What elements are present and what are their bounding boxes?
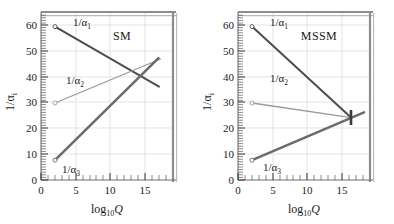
panel-title-mssm: MSSM	[301, 29, 337, 43]
y-tick-labels-mssm: 0 10 20 30 40 50 60	[223, 19, 235, 186]
y-tick-10: 10	[26, 148, 38, 160]
x-tick-5: 5	[73, 184, 79, 196]
y-tick-50: 50	[26, 45, 38, 57]
x-axis-title-var: Q	[311, 202, 320, 216]
x-tick-15: 15	[337, 184, 349, 196]
x-axis-title-mssm: log10Q	[288, 202, 320, 218]
marker-alpha2-start-sm	[53, 101, 57, 105]
y-tick-50: 50	[223, 45, 235, 57]
panel-title-sm: SM	[113, 29, 131, 43]
y-tick-40: 40	[26, 71, 38, 83]
x-axis-title-sub: 10	[106, 209, 114, 218]
y-tick-30: 30	[223, 96, 235, 108]
figure-two-panel-coupling-unification: 0 10 20 30 40 50 60 0 5 10 15 1/αi	[0, 0, 394, 224]
y-axis-title-mssm: 1/αi	[200, 92, 216, 111]
marker-alpha1-start-mssm	[250, 25, 254, 29]
panel-sm: 0 10 20 30 40 50 60 0 5 10 15 1/αi	[0, 0, 197, 224]
x-axis-title-sub: 10	[303, 209, 311, 218]
svg-text:1/αi: 1/αi	[200, 92, 216, 111]
marker-alpha3-start-sm	[53, 158, 57, 162]
y-tick-20: 20	[223, 122, 235, 134]
y-tick-labels-sm: 0 10 20 30 40 50 60	[26, 19, 38, 186]
x-tick-labels-sm: 0 5 10 15	[38, 184, 151, 196]
x-tick-0: 0	[38, 184, 44, 196]
x-tick-10: 10	[105, 184, 117, 196]
marker-alpha2-start-mssm	[250, 101, 254, 105]
y-axis-title-main: 1/α	[200, 95, 214, 111]
panel-mssm: 0 10 20 30 40 50 60 0 5 10 15 1/αi log1	[197, 0, 394, 224]
y-tick-0: 0	[32, 174, 38, 186]
y-tick-30: 30	[26, 96, 38, 108]
y-axis-title-sm: 1/αi	[3, 92, 19, 111]
x-tick-5: 5	[270, 184, 276, 196]
x-tick-0: 0	[235, 184, 241, 196]
y-tick-40: 40	[223, 71, 235, 83]
y-tick-10: 10	[223, 148, 235, 160]
marker-alpha3-start-mssm	[250, 158, 254, 162]
y-tick-0: 0	[229, 174, 235, 186]
x-axis-title-main: log	[288, 202, 303, 216]
x-axis-title-main: log	[91, 202, 106, 216]
x-tick-labels-mssm: 0 5 10 15	[235, 184, 348, 196]
x-tick-10: 10	[302, 184, 314, 196]
y-tick-60: 60	[223, 19, 235, 31]
x-axis-title-sm: log10Q	[91, 202, 123, 218]
y-tick-60: 60	[26, 19, 38, 31]
marker-alpha1-start-sm	[53, 25, 57, 29]
x-tick-15: 15	[140, 184, 152, 196]
svg-text:1/αi: 1/αi	[3, 92, 19, 111]
y-tick-20: 20	[26, 122, 38, 134]
x-axis-title-var: Q	[114, 202, 123, 216]
y-axis-title-sub: i	[207, 92, 216, 95]
y-axis-title-sub: i	[10, 92, 19, 95]
y-axis-title-main: 1/α	[3, 95, 17, 111]
